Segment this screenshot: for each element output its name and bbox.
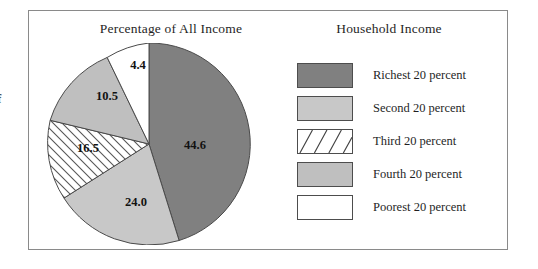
pie-label-fourth: 10.5: [96, 89, 118, 103]
solid-white-swatch: [297, 195, 353, 220]
margin-glyph: f: [0, 92, 1, 105]
legend-label-second: Second 20 percent: [373, 101, 465, 116]
diagonal-hatch-swatch: [297, 129, 353, 154]
legend-item-fourth: Fourth 20 percent: [297, 158, 497, 190]
legend-label-fourth: Fourth 20 percent: [373, 167, 462, 182]
legend-item-second: Second 20 percent: [297, 92, 497, 124]
legend-title: Household Income: [281, 21, 497, 37]
legend-item-third: Third 20 percent: [297, 125, 497, 157]
legend-label-third: Third 20 percent: [373, 134, 456, 149]
pie-label-third: 16.5: [77, 141, 99, 155]
legend-label-poorest: Poorest 20 percent: [373, 200, 466, 215]
pie-label-second: 24.0: [125, 195, 147, 209]
pie-chart-title: Percentage of All Income: [51, 21, 291, 37]
solid-medium-gray-swatch: [297, 162, 353, 187]
pie-chart: 44.6 24.0 16.5 10.5 4.4: [45, 43, 253, 245]
legend-item-poorest: Poorest 20 percent: [297, 191, 497, 223]
legend: Richest 20 percent Second 20 percent Thi…: [297, 59, 497, 224]
legend-label-richest: Richest 20 percent: [373, 68, 466, 83]
solid-dark-gray-swatch: [297, 63, 353, 88]
pie-label-poorest: 4.4: [130, 58, 146, 72]
legend-item-richest: Richest 20 percent: [297, 59, 497, 91]
chart-frame: Percentage of All Income Household Incom…: [28, 10, 508, 250]
pie-label-richest: 44.6: [184, 138, 206, 152]
solid-light-gray-swatch: [297, 96, 353, 121]
